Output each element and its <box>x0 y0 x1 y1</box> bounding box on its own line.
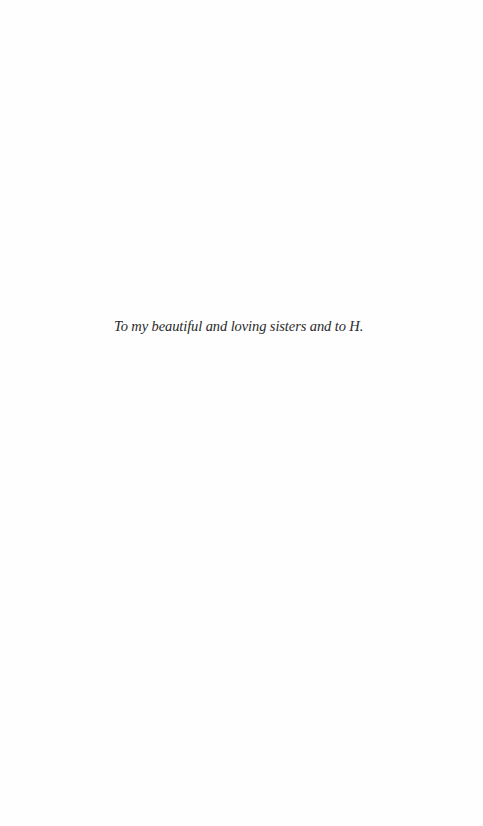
dedication-page: To my beautiful and loving sisters and t… <box>0 0 483 826</box>
dedication-text: To my beautiful and loving sisters and t… <box>114 318 363 335</box>
